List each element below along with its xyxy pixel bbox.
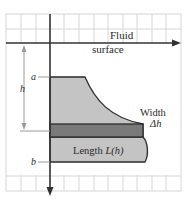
length-label: Length L(h) (73, 145, 124, 157)
fluid-label: Fluid (110, 29, 134, 41)
fluid-pressure-diagram: Fluid surface a b h Width Δh Length L(h) (0, 0, 190, 202)
delta-h-label: Δh (149, 118, 161, 129)
h-label: h (20, 83, 25, 94)
width-label: Width (140, 107, 167, 118)
surface-label: surface (92, 43, 124, 55)
a-label: a (31, 71, 36, 82)
b-label: b (31, 156, 36, 167)
horizontal-strip (50, 124, 143, 137)
